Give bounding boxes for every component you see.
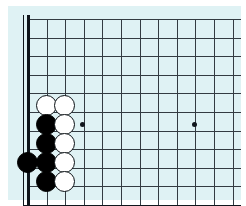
white-stone[interactable] [54, 133, 75, 154]
grid-line-horizontal [28, 93, 241, 94]
grid-line-horizontal [28, 38, 241, 39]
grid-line-vertical [140, 19, 141, 205]
board-border-bottom [23, 205, 241, 206]
grid-line-vertical [177, 19, 178, 205]
white-stone[interactable] [54, 171, 75, 192]
white-stone[interactable] [54, 114, 75, 135]
grid-line-vertical [102, 19, 103, 205]
white-stone[interactable] [54, 95, 75, 116]
go-board-screenshot [0, 0, 246, 206]
grid-line-horizontal [28, 75, 241, 76]
white-stone[interactable] [54, 152, 75, 173]
grid-line-vertical [214, 19, 215, 205]
star-point-hoshi-left [80, 122, 85, 127]
grid-line-vertical [121, 19, 122, 205]
grid-line-vertical [195, 19, 196, 205]
grid-line-vertical [84, 19, 85, 205]
board-border-left-inner [23, 15, 24, 206]
grid-line-vertical [158, 19, 159, 205]
board-border-left [27, 15, 30, 206]
grid-line-vertical [233, 19, 234, 205]
goban[interactable] [0, 0, 246, 206]
grid-line-horizontal [28, 19, 241, 20]
grid-line-horizontal [28, 56, 241, 57]
black-stone[interactable] [17, 152, 38, 173]
star-point-hoshi-right [192, 122, 197, 127]
